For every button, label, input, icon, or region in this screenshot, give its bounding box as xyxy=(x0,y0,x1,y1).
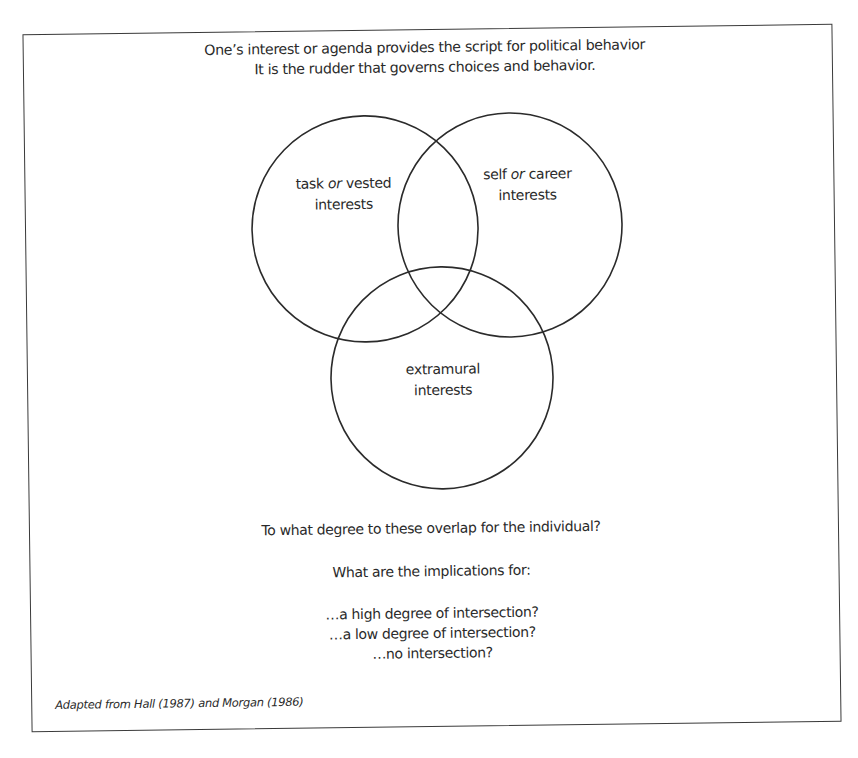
label-self-pre: self xyxy=(483,166,511,182)
diagram-page: One’s interest or agenda provides the sc… xyxy=(0,0,858,758)
label-extramural-line1: extramural xyxy=(406,360,480,377)
circle-self-interests xyxy=(397,112,624,339)
circle-task-interests xyxy=(251,114,480,343)
label-task-or: or xyxy=(328,175,342,191)
label-extramural-interests: extramural interests xyxy=(383,358,504,402)
label-self-post: career xyxy=(524,165,571,182)
label-self-or: or xyxy=(511,166,525,182)
label-task-post: vested xyxy=(342,175,392,192)
label-task-pre: task xyxy=(295,175,328,191)
label-task-interests: task or vested interests xyxy=(282,172,405,216)
label-self-line2: interests xyxy=(498,186,557,203)
label-task-line2: interests xyxy=(314,196,373,213)
label-extramural-line2: interests xyxy=(414,381,473,398)
label-self-interests: self or career interests xyxy=(467,163,588,207)
